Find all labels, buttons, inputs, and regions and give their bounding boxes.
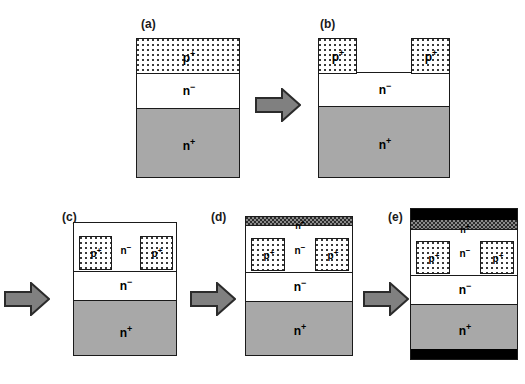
layer-p-plus-right-pillar: p+	[140, 236, 173, 270]
stage-d-device-cross-section: p+ p+ n+ n− n− n+	[245, 216, 353, 356]
label-p-plus-right: p+	[425, 51, 438, 63]
label-n-minus-channel: n−	[460, 249, 471, 259]
label-n-minus-channel: n−	[121, 246, 132, 256]
layer-p-plus-right-pillar: p+	[315, 238, 349, 271]
stage-a-caption: (a)	[141, 17, 156, 31]
label-p-plus-left: p+	[429, 254, 440, 264]
arrow-d-to-e	[363, 282, 409, 316]
arrow-a-to-b	[255, 88, 301, 122]
stage-b-base-slab: n− n+	[318, 72, 450, 178]
layer-bottom-metal-contact	[411, 349, 517, 359]
label-p-plus-left: p+	[91, 249, 102, 259]
stage-e-caption: (e)	[388, 210, 403, 224]
label-n-minus-channel: n−	[295, 246, 306, 256]
label-n-minus: n−	[183, 85, 196, 97]
label-n-minus: n−	[379, 84, 392, 96]
stage-e-device-cross-section: p+ p+ n+ n− n− n+	[410, 208, 518, 360]
stage-d-caption: (d)	[211, 210, 226, 224]
arrow-b-to-c	[4, 282, 50, 316]
layer-p-plus-left-pillar: p+	[79, 236, 112, 270]
stage-b-caption: (b)	[320, 17, 335, 31]
layer-top-metal-contact	[411, 209, 517, 220]
layer-p-plus-right-pillar: p+	[480, 241, 514, 274]
label-n-plus: n+	[294, 325, 307, 337]
label-p-plus-left: p+	[264, 251, 275, 261]
label-n-plus: n+	[379, 139, 392, 151]
label-n-minus-drift: n−	[294, 281, 307, 293]
layer-p-plus-left-pillar: p+	[318, 38, 357, 74]
stage-a-device-cross-section: p+ n− n+	[136, 38, 240, 178]
layer-p-plus-left-pillar: p+	[251, 238, 285, 271]
label-n-minus-drift: n−	[459, 284, 472, 296]
label-p-plus: p+	[183, 52, 196, 64]
label-n-plus-cap: n+	[460, 226, 470, 235]
label-p-plus-right: p+	[493, 254, 504, 264]
arrow-c-to-d	[190, 282, 236, 316]
label-n-plus: n+	[183, 140, 196, 152]
label-p-plus-right: p+	[328, 251, 339, 261]
stage-b-device-cross-section: n− n+ p+ p+	[318, 38, 450, 178]
label-n-minus-drift: n−	[120, 280, 133, 292]
label-p-plus-left: p+	[332, 51, 345, 63]
layer-p-plus-right-pillar: p+	[411, 38, 450, 74]
label-p-plus-right: p+	[152, 249, 163, 259]
label-n-plus-cap: n+	[295, 222, 305, 231]
layer-p-plus-left-pillar: p+	[416, 241, 450, 274]
label-n-plus: n+	[120, 327, 133, 339]
label-n-plus: n+	[459, 325, 472, 337]
stage-c-device-cross-section: p+ p+ n− n− n+	[73, 222, 177, 356]
